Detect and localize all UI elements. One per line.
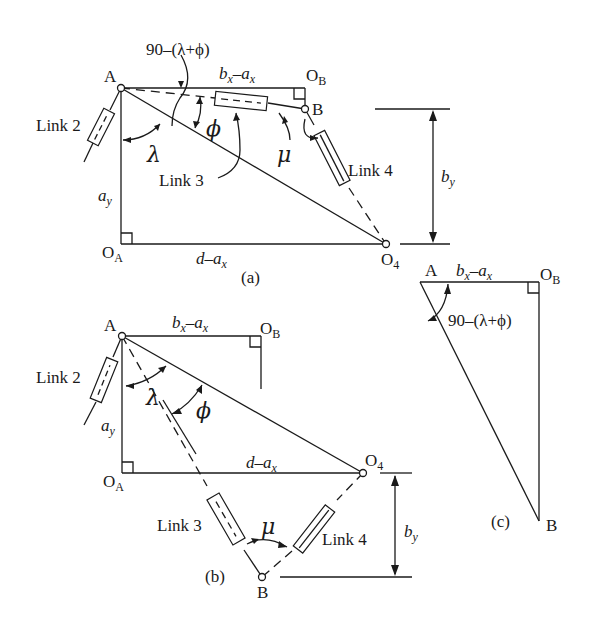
label-by-a: by	[441, 167, 456, 189]
link3-solid	[268, 103, 305, 109]
label-d-ax-a: d–ax	[196, 249, 228, 271]
label-ob: OB	[306, 66, 326, 88]
link4-dashed-upper-b	[337, 473, 363, 500]
link4-dashed	[349, 188, 386, 244]
link3-body-b	[207, 493, 245, 545]
label-link3-a: Link 3	[159, 171, 204, 190]
arc-90-lambda-phi	[172, 55, 188, 126]
label-link2-b: Link 2	[36, 368, 81, 387]
label-angle-expr-a: 90–(λ+ϕ)	[146, 40, 210, 59]
label-o4-a: O4	[381, 250, 399, 272]
label-link2-a: Link 2	[36, 116, 81, 135]
pin-a	[118, 85, 125, 92]
label-lambda-b: λ	[145, 385, 160, 410]
link2-lower-b	[84, 402, 96, 425]
link3-dashed-b	[122, 336, 207, 486]
label-bx-ax-a: bx–ax	[219, 64, 256, 86]
pin-b	[302, 106, 309, 113]
label-mu-b: μ	[261, 514, 275, 539]
link4-dashed-lower-b	[262, 551, 292, 577]
four-bar-linkage-diagram: A OB B 90–(λ+ϕ) bx–ax Link 2 Link 3 Link…	[0, 0, 592, 628]
panel-a: A OB B 90–(λ+ϕ) bx–ax Link 2 Link 3 Link…	[36, 40, 456, 287]
label-mu-a: μ	[277, 142, 291, 167]
label-angle-expr-c: 90–(λ+ϕ)	[448, 311, 512, 330]
label-a-c: A	[425, 261, 438, 280]
right-angle-oa-b	[122, 462, 133, 473]
pin-o4-b	[360, 470, 367, 477]
label-bx-ax-b: bx–ax	[172, 313, 209, 335]
panel-c: A bx–ax OB 90–(λ+ϕ) (c) B	[420, 261, 560, 535]
label-ay-b: ay	[101, 416, 116, 438]
link3-body	[214, 91, 267, 110]
label-by-b: by	[404, 522, 419, 544]
caption-b: (b)	[205, 567, 225, 586]
pin-b-b	[259, 574, 266, 581]
right-angle-ob	[294, 88, 305, 99]
caption-a: (a)	[241, 268, 260, 287]
link2-body	[87, 108, 114, 146]
label-lambda-a: λ	[146, 142, 161, 167]
right-angle-oa	[121, 233, 132, 244]
label-b-b: B	[257, 583, 268, 602]
leader-link3	[218, 113, 240, 178]
link4-body	[314, 130, 350, 185]
label-phi-b: ϕ	[196, 398, 211, 423]
label-a-b: A	[104, 316, 117, 335]
label-oa-a: OA	[102, 243, 123, 265]
label-b: B	[312, 100, 323, 119]
label-link4-a: Link 4	[348, 161, 393, 180]
label-oa-b: OA	[103, 472, 124, 494]
link2-lower	[84, 143, 93, 162]
label-ay-a: ay	[98, 186, 113, 208]
label-phi-a: ϕ	[206, 116, 221, 141]
label-o4-b: O4	[365, 451, 383, 473]
label-bx-ax-c: bx–ax	[456, 261, 493, 283]
label-ob-c: OB	[540, 265, 560, 287]
link2-body-b	[90, 357, 118, 402]
lambda-leader-b	[163, 400, 196, 454]
pin-o4	[383, 241, 390, 248]
right-angle-ob-c	[528, 282, 539, 293]
label-b-c: B	[546, 516, 557, 535]
link3-solid-b	[244, 550, 262, 577]
label-link4-b: Link 4	[322, 530, 367, 549]
label-link3-b: Link 3	[157, 516, 202, 535]
panel-b: A OB bx–ax Link 2 λ ϕ ay OA d–ax O4 Link…	[36, 313, 419, 602]
pin-a-b	[119, 333, 126, 340]
label-d-ax-b: d–ax	[246, 453, 278, 475]
label-a: A	[104, 67, 117, 86]
label-ob-b: OB	[260, 319, 280, 341]
arc-90-lambda-phi-c	[428, 284, 448, 321]
caption-c: (c)	[491, 512, 510, 531]
diagram-svg: A OB B 90–(λ+ϕ) bx–ax Link 2 Link 3 Link…	[0, 0, 592, 628]
